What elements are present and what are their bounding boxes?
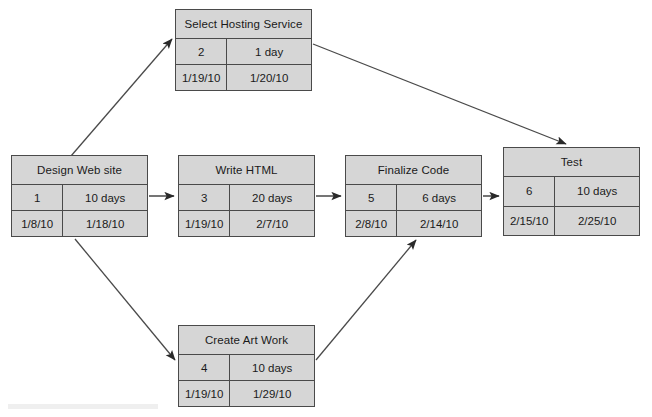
task-start-date: 2/15/10	[504, 207, 555, 236]
task-node-finalize-code[interactable]: Finalize Code 5 6 days 2/8/10 2/14/10	[345, 155, 482, 237]
scan-artifact	[8, 404, 158, 409]
task-title: Create Art Work	[179, 326, 314, 355]
task-node-select-hosting-service[interactable]: Select Hosting Service 2 1 day 1/19/10 1…	[175, 9, 312, 91]
task-start-date: 1/8/10	[12, 211, 63, 236]
task-start-date: 1/19/10	[179, 381, 230, 406]
task-duration: 1 day	[227, 39, 311, 64]
task-end-date: 1/29/10	[230, 381, 314, 406]
task-duration: 10 days	[63, 185, 147, 210]
network-diagram-canvas: Select Hosting Service 2 1 day 1/19/10 1…	[0, 0, 652, 417]
task-row-dates: 1/19/10 1/20/10	[176, 65, 311, 90]
task-end-date: 1/18/10	[63, 211, 147, 236]
connector-select-hosting-to-test	[313, 44, 566, 144]
task-title: Finalize Code	[346, 156, 481, 185]
task-node-design-web-site[interactable]: Design Web site 1 10 days 1/8/10 1/18/10	[11, 155, 148, 237]
task-end-date: 1/20/10	[227, 65, 311, 90]
task-node-write-html[interactable]: Write HTML 3 20 days 1/19/10 2/7/10	[178, 155, 315, 237]
task-start-date: 1/19/10	[179, 211, 230, 236]
task-title: Select Hosting Service	[176, 10, 311, 39]
connector-design-to-create-art-work	[75, 239, 175, 360]
task-row-duration: 3 20 days	[179, 185, 314, 211]
task-row-dates: 2/15/10 2/25/10	[504, 207, 639, 236]
task-duration: 6 days	[397, 185, 481, 210]
task-row-dates: 1/19/10 2/7/10	[179, 211, 314, 236]
task-end-date: 2/25/10	[555, 207, 639, 236]
task-duration: 10 days	[555, 177, 639, 206]
task-row-dates: 1/8/10 1/18/10	[12, 211, 147, 236]
connector-create-art-work-to-finalize-code	[316, 240, 416, 360]
task-row-dates: 1/19/10 1/29/10	[179, 381, 314, 406]
task-number: 1	[12, 185, 63, 210]
task-title: Test	[504, 148, 639, 177]
task-node-test[interactable]: Test 6 10 days 2/15/10 2/25/10	[503, 147, 640, 236]
task-row-duration: 1 10 days	[12, 185, 147, 211]
task-end-date: 2/14/10	[397, 211, 481, 236]
task-row-duration: 4 10 days	[179, 355, 314, 381]
task-row-dates: 2/8/10 2/14/10	[346, 211, 481, 236]
connector-design-to-select-hosting	[71, 39, 172, 156]
task-end-date: 2/7/10	[230, 211, 314, 236]
task-row-duration: 6 10 days	[504, 177, 639, 207]
task-number: 2	[176, 39, 227, 64]
task-start-date: 2/8/10	[346, 211, 397, 236]
task-number: 4	[179, 355, 230, 380]
task-number: 5	[346, 185, 397, 210]
task-number: 3	[179, 185, 230, 210]
task-title: Design Web site	[12, 156, 147, 185]
task-title: Write HTML	[179, 156, 314, 185]
task-node-create-art-work[interactable]: Create Art Work 4 10 days 1/19/10 1/29/1…	[178, 325, 315, 407]
task-row-duration: 2 1 day	[176, 39, 311, 65]
task-duration: 20 days	[230, 185, 314, 210]
task-row-duration: 5 6 days	[346, 185, 481, 211]
task-number: 6	[504, 177, 555, 206]
task-start-date: 1/19/10	[176, 65, 227, 90]
task-duration: 10 days	[230, 355, 314, 380]
